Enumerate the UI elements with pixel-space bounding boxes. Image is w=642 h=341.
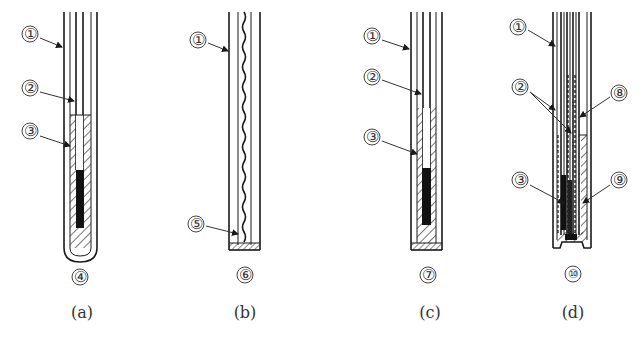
caption-c: (c) [419,303,440,322]
svg-text:②: ② [514,78,527,96]
thermocouple-diagram: ① ② ③ ④ (a) ① [0,0,642,341]
panel-c: ① ② ③ ⑦ (c) [364,12,442,322]
bottom-label-4: ④ [72,268,88,286]
callout-1: ① [510,18,555,46]
callout-5: ⑤ [188,215,238,234]
svg-text:③: ③ [366,128,379,146]
svg-text:⑤: ⑤ [190,215,203,233]
callout-1: ① [22,25,62,47]
callout-3: ③ [22,122,70,146]
callout-2: ② [512,78,571,133]
callout-1: ① [364,27,409,49]
panel-d: ① ② ⑧ ③ ⑨ ⑩ (d) [510,12,627,322]
bottom-label-6: ⑥ [237,266,253,284]
svg-text:③: ③ [514,171,527,189]
callout-2: ② [22,79,74,101]
svg-text:②: ② [24,79,37,97]
panel-b: ① ⑤ ⑥ (b) [188,12,260,322]
svg-text:⑦: ⑦ [422,266,435,284]
svg-text:⑨: ⑨ [613,171,626,189]
callout-1: ① [190,31,228,51]
panel-a: ① ② ③ ④ (a) [22,12,97,322]
svg-text:①: ① [366,27,379,45]
callout-3: ③ [364,128,417,154]
bottom-label-7: ⑦ [420,266,436,284]
svg-text:⑧: ⑧ [613,84,626,102]
callout-3: ③ [512,171,564,203]
svg-text:④: ④ [74,268,87,286]
svg-text:②: ② [366,68,379,86]
svg-text:⑩: ⑩ [568,267,579,281]
bottom-label-10: ⑩ [565,266,581,282]
svg-text:①: ① [512,18,525,36]
svg-text:③: ③ [24,122,37,140]
caption-a: (a) [71,303,93,322]
callout-9: ⑨ [583,171,627,203]
svg-text:①: ① [24,25,37,43]
svg-text:①: ① [192,31,205,49]
caption-d: (d) [562,303,585,322]
callout-2: ② [364,68,421,94]
caption-b: (b) [234,303,257,322]
svg-text:⑥: ⑥ [239,266,252,284]
